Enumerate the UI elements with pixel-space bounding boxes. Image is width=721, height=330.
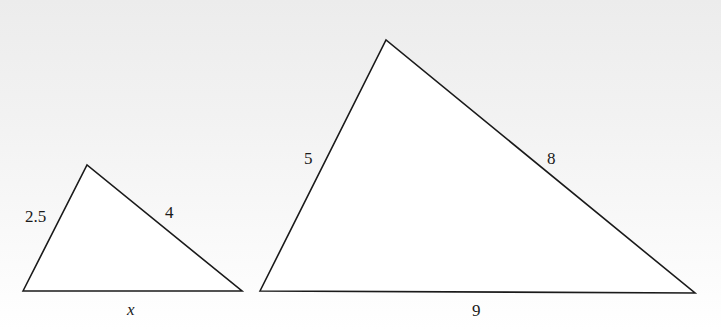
similar-triangles-diagram: 2.5 4 x 5 8 9	[0, 0, 721, 330]
large-left-side-label: 5	[304, 149, 313, 168]
small-right-side-label: 4	[165, 203, 174, 222]
large-triangle: 5 8 9	[260, 40, 695, 320]
small-base-label: x	[126, 300, 135, 319]
large-right-side-label: 8	[547, 149, 556, 168]
small-triangle: 2.5 4 x	[23, 165, 242, 319]
large-base-label: 9	[472, 301, 481, 320]
small-left-side-label: 2.5	[25, 207, 46, 226]
